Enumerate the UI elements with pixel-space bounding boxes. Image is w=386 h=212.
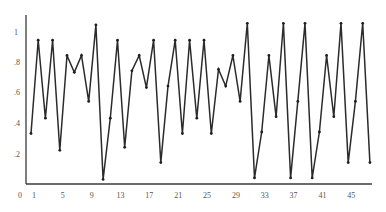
data-point xyxy=(246,22,249,25)
data-point xyxy=(369,161,372,164)
data-point xyxy=(138,54,141,57)
x-tick-label: 13 xyxy=(117,191,125,200)
x-tick-label: 9 xyxy=(90,191,94,200)
data-point xyxy=(318,131,321,134)
data-point xyxy=(260,131,263,134)
data-point xyxy=(51,39,54,42)
data-point xyxy=(37,39,40,42)
data-point xyxy=(80,54,83,57)
x-tick-label: 37 xyxy=(290,191,298,200)
y-tick-label: .4 xyxy=(14,119,20,128)
data-point xyxy=(167,85,170,88)
line-chart: 0.2.4.6.81 159131721252933374145 xyxy=(0,0,386,212)
data-point xyxy=(361,22,364,25)
data-point xyxy=(289,177,292,180)
y-tick-label: 0 xyxy=(18,191,22,200)
data-point xyxy=(30,132,33,135)
data-point xyxy=(203,39,206,42)
data-point xyxy=(268,54,271,57)
x-tick-label: 45 xyxy=(347,191,355,200)
data-point xyxy=(123,146,126,149)
data-point xyxy=(224,85,227,88)
x-tick-label: 17 xyxy=(145,191,153,200)
y-tick-label: .8 xyxy=(14,58,20,67)
data-point-markers xyxy=(30,22,372,181)
data-point xyxy=(232,54,235,57)
data-point xyxy=(73,71,76,74)
data-point xyxy=(58,149,61,152)
data-point xyxy=(253,177,256,180)
data-series-line xyxy=(31,23,370,179)
data-point xyxy=(340,22,343,25)
data-point xyxy=(109,117,112,120)
x-tick-label: 25 xyxy=(203,191,211,200)
data-point xyxy=(195,117,198,120)
data-point xyxy=(44,117,47,120)
data-point xyxy=(217,68,220,71)
data-point xyxy=(275,115,278,118)
x-tick-label: 1 xyxy=(32,191,36,200)
data-point xyxy=(347,161,350,164)
data-point xyxy=(296,100,299,103)
data-point xyxy=(131,69,134,72)
x-tick-label: 21 xyxy=(174,191,182,200)
x-tick-label: 33 xyxy=(261,191,269,200)
data-point xyxy=(325,54,328,57)
data-point xyxy=(311,177,314,180)
x-tick-label: 29 xyxy=(232,191,240,200)
data-point xyxy=(95,24,98,27)
y-tick-label: .6 xyxy=(14,88,20,97)
data-point xyxy=(332,115,335,118)
data-point xyxy=(87,100,90,103)
data-point xyxy=(239,100,242,103)
y-axis: 0.2.4.6.81 xyxy=(14,15,26,200)
x-tick-label: 5 xyxy=(61,191,65,200)
data-point xyxy=(159,161,162,164)
x-tick-label: 41 xyxy=(318,191,326,200)
y-tick-labels: 0.2.4.6.81 xyxy=(14,28,22,200)
y-tick-label: .2 xyxy=(14,150,20,159)
plot-area xyxy=(30,22,372,181)
data-point xyxy=(304,22,307,25)
data-point xyxy=(210,132,213,135)
data-point xyxy=(116,39,119,42)
data-point xyxy=(181,132,184,135)
data-point xyxy=(354,100,357,103)
y-tick-label: 1 xyxy=(14,28,18,37)
x-axis: 159131721252933374145 xyxy=(26,184,372,200)
data-point xyxy=(152,39,155,42)
data-point xyxy=(282,22,285,25)
data-point xyxy=(102,178,105,181)
data-point xyxy=(174,39,177,42)
data-point xyxy=(66,54,69,57)
data-point xyxy=(188,39,191,42)
x-tick-labels: 159131721252933374145 xyxy=(32,191,355,200)
data-point xyxy=(145,86,148,89)
